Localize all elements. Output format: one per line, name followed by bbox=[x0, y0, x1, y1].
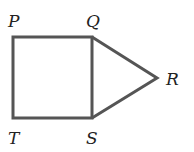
vertex-label-q: Q bbox=[86, 11, 100, 31]
vertex-label-t: T bbox=[8, 128, 21, 148]
geometry-figure: P Q R T S bbox=[0, 0, 194, 152]
triangle-qrs bbox=[92, 37, 157, 118]
vertex-label-s: S bbox=[86, 128, 98, 148]
vertex-label-r: R bbox=[165, 69, 179, 89]
square-pqst bbox=[13, 37, 92, 118]
vertex-label-p: P bbox=[7, 11, 20, 31]
